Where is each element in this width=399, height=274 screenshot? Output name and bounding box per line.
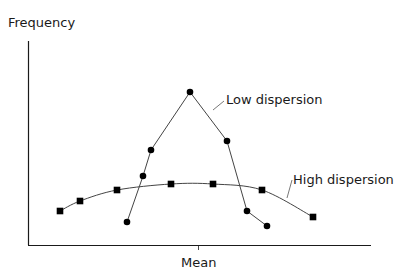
data-point xyxy=(224,138,231,145)
series-line xyxy=(60,183,313,217)
data-point xyxy=(57,208,64,215)
data-point xyxy=(77,198,84,205)
chart-svg: Frequency Mean Low dispersion High dispe… xyxy=(0,0,399,274)
data-point xyxy=(264,223,271,230)
high-label-leader xyxy=(287,180,292,198)
data-point xyxy=(124,219,131,226)
data-point xyxy=(310,214,317,221)
low-dispersion-series xyxy=(124,89,271,230)
series-line xyxy=(127,92,267,226)
x-axis-label: Mean xyxy=(181,255,216,270)
y-axis-label: Frequency xyxy=(8,15,75,30)
data-point xyxy=(210,181,217,188)
high-dispersion-label: High dispersion xyxy=(293,172,394,187)
data-point xyxy=(259,187,266,194)
data-point xyxy=(168,181,175,188)
low-dispersion-label: Low dispersion xyxy=(226,92,323,107)
data-point xyxy=(244,208,251,215)
data-point xyxy=(140,173,147,180)
data-point xyxy=(187,89,194,96)
high-dispersion-series xyxy=(57,181,317,221)
low-label-leader xyxy=(213,101,224,110)
data-point xyxy=(114,187,121,194)
data-point xyxy=(148,147,155,154)
